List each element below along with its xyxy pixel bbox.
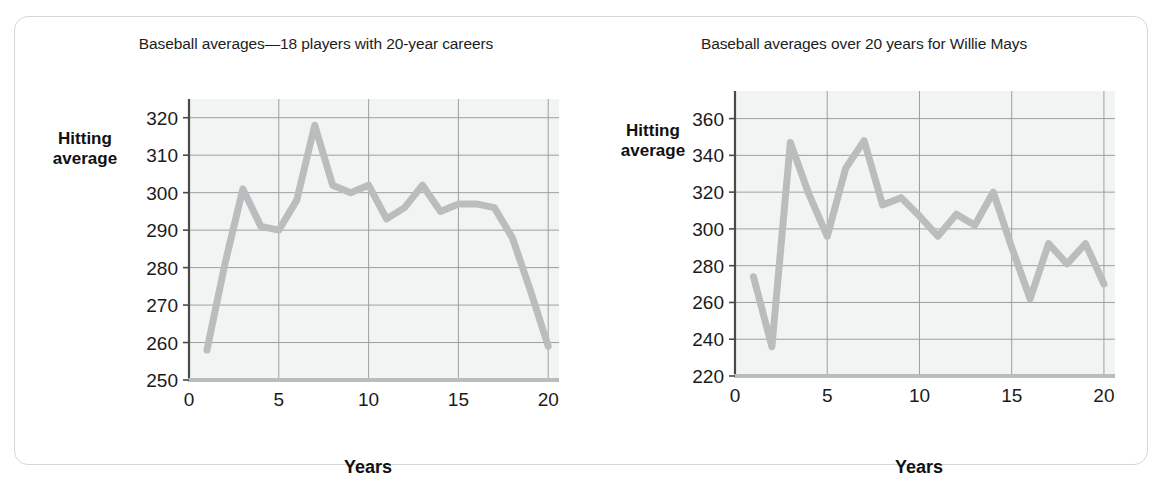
plot-area-right: 22024026028030032034036005101520 (719, 75, 1119, 428)
svg-text:10: 10 (358, 389, 379, 410)
svg-text:320: 320 (692, 182, 724, 203)
svg-text:360: 360 (692, 109, 724, 130)
y-axis-label-line-2: average (31, 149, 139, 169)
svg-text:300: 300 (146, 183, 178, 204)
svg-text:5: 5 (822, 385, 833, 406)
svg-text:250: 250 (146, 370, 178, 391)
svg-text:20: 20 (538, 389, 559, 410)
line-chart-right: 22024026028030032034036005101520 (719, 75, 1119, 428)
chart-title-left: Baseball averages—18 players with 20-yea… (15, 35, 599, 53)
chart-title-right: Baseball averages over 20 years for Will… (581, 35, 1151, 53)
svg-text:15: 15 (1001, 385, 1022, 406)
svg-text:20: 20 (1093, 385, 1114, 406)
svg-text:240: 240 (692, 329, 724, 350)
svg-text:280: 280 (692, 256, 724, 277)
x-axis-label-left: Years (173, 457, 563, 478)
svg-text:340: 340 (692, 145, 724, 166)
svg-text:300: 300 (692, 219, 724, 240)
svg-text:260: 260 (692, 292, 724, 313)
svg-text:0: 0 (184, 389, 195, 410)
svg-text:310: 310 (146, 145, 178, 166)
figure-frame: Baseball averages—18 players with 20-yea… (14, 16, 1148, 465)
chart-panels: Baseball averages—18 players with 20-yea… (15, 17, 1147, 464)
svg-text:15: 15 (448, 389, 469, 410)
x-axis-label-right: Years (719, 457, 1119, 478)
svg-text:270: 270 (146, 295, 178, 316)
y-axis-label-line-2: average (599, 141, 707, 161)
y-axis-label-line-1: Hitting (599, 121, 707, 141)
svg-text:320: 320 (146, 108, 178, 129)
chart-panel-left: Baseball averages—18 players with 20-yea… (15, 17, 581, 464)
y-axis-label-line-1: Hitting (31, 129, 139, 149)
svg-text:5: 5 (274, 389, 285, 410)
svg-text:0: 0 (730, 385, 741, 406)
svg-text:10: 10 (909, 385, 930, 406)
line-chart-left: 25026027028029030031032005101520 (173, 83, 563, 428)
svg-text:290: 290 (146, 220, 178, 241)
svg-text:280: 280 (146, 258, 178, 279)
svg-text:220: 220 (692, 366, 724, 387)
y-axis-label-right: Hitting average (599, 121, 707, 161)
svg-text:260: 260 (146, 333, 178, 354)
chart-panel-right: Baseball averages over 20 years for Will… (581, 17, 1147, 464)
plot-area-left: 25026027028029030031032005101520 (173, 83, 563, 428)
y-axis-label-left: Hitting average (31, 129, 139, 169)
